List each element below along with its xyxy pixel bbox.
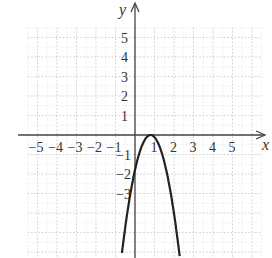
x-tick-label: −4 [48,140,63,155]
y-tick-label: −1 [116,148,131,163]
y-tick-label: 3 [121,70,128,85]
x-tick-label: −5 [29,140,44,155]
x-tick-label: 4 [209,140,216,155]
x-tick-label: 2 [170,140,177,155]
x-tick-label: 3 [190,140,197,155]
y-tick-label: 1 [121,109,128,124]
y-axis-label: y [117,1,127,19]
y-tick-label: 2 [121,89,128,104]
x-tick-label: −3 [68,140,83,155]
y-tick-label: 4 [121,50,128,65]
y-tick-label: 5 [121,31,128,46]
y-tick-label: −2 [116,167,131,182]
x-tick-label: 5 [229,140,236,155]
x-tick-label: −2 [87,140,102,155]
parabola-chart: xy −5−4−3−2−11234554321−1−2−3 [0,0,272,258]
axes: xy [18,1,269,258]
x-axis-label: x [261,136,269,153]
